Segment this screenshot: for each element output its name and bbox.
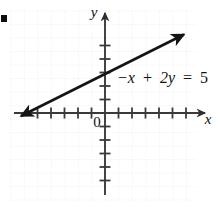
origin-label: 0 [93,114,101,130]
equation-label: −x + 2y = 5 [117,69,208,87]
bullet-marker-icon [1,15,7,22]
x-axis-label: x [204,111,212,127]
coordinate-plane-svg: x y 0 −x + 2y = 5 [0,0,220,212]
equation-value: 5 [200,69,208,86]
equation-term1: −x [117,69,135,86]
y-axis-label: y [89,4,98,20]
equation-term2: 2y [160,69,176,87]
equation-operator: + [143,69,152,86]
background-grid [10,10,196,201]
equation-equals: = [183,69,192,86]
graph-figure: x y 0 −x + 2y = 5 [0,0,220,212]
